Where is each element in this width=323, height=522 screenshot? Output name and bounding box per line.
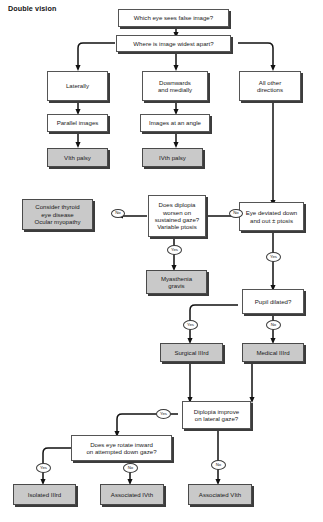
edge-label-no-associated-vith: No bbox=[211, 460, 226, 470]
node-laterally[interactable]: Laterally bbox=[47, 71, 108, 101]
node-medical-iiird[interactable]: Medical IIIrd bbox=[242, 343, 304, 362]
node-label-line: and out ± ptosis bbox=[250, 217, 293, 224]
node-label: Associated IVth bbox=[111, 491, 153, 498]
node-does-eye-rotate-inward-down-gaze[interactable]: Does eye rotate inward on attempted down… bbox=[71, 435, 172, 461]
node-label-line: directions bbox=[257, 86, 283, 93]
node-label-line: sustained gaze? bbox=[155, 216, 199, 223]
node-eye-deviated-down-and-out[interactable]: Eye deviated down and out ± ptosis bbox=[239, 202, 304, 231]
node-label-line: Downwards bbox=[159, 79, 191, 86]
edge-label-text: No bbox=[128, 466, 134, 471]
node-images-at-an-angle[interactable]: Images at an angle bbox=[140, 114, 210, 132]
node-label: Medical IIIrd bbox=[256, 349, 289, 356]
node-label: Isolated IIIrd bbox=[28, 491, 62, 498]
edge-label-no-associated-ivth: No bbox=[123, 463, 138, 473]
node-label: Laterally bbox=[66, 82, 89, 89]
node-label-line: Variable ptosis bbox=[157, 223, 197, 230]
node-pupil-dilated[interactable]: Pupil dilated? bbox=[242, 289, 304, 314]
node-does-diplopia-worsen-sustained-gaze[interactable]: Does diplopia worsen on sustained gaze? … bbox=[148, 195, 206, 237]
edge-label-text: Yes bbox=[160, 412, 167, 417]
node-label: Parallel images bbox=[57, 119, 99, 126]
node-all-other-directions[interactable]: All other directions bbox=[239, 71, 301, 101]
node-label: Images at an angle bbox=[149, 119, 201, 126]
node-label-line: worsen on bbox=[163, 209, 191, 216]
flowchart-canvas: Double vision bbox=[0, 0, 323, 522]
edge-label-yes-pupil-dilated: Yes bbox=[266, 252, 281, 262]
node-diplopia-improve-lateral-gaze[interactable]: Diplopia improve on lateral gaze? bbox=[182, 401, 251, 429]
node-label-line: Eye deviated down bbox=[246, 209, 298, 216]
node-ivth-palsy[interactable]: IVth palsy bbox=[142, 148, 203, 167]
node-label-line: Consider thyroid bbox=[35, 203, 79, 210]
node-label-line: on attempted down gaze? bbox=[86, 448, 156, 455]
edge-label-yes-isolated-iiird: Yes bbox=[36, 463, 51, 473]
node-label-line: gravis bbox=[168, 282, 184, 289]
node-associated-ivth[interactable]: Associated IVth bbox=[100, 484, 164, 505]
node-where-image-widest-apart[interactable]: Where is image widest apart? bbox=[116, 35, 231, 52]
node-label-line: Ocular myopathy bbox=[34, 218, 80, 225]
node-label-line: All other bbox=[259, 79, 281, 86]
node-label: Associated VIth bbox=[199, 491, 241, 498]
edge-label-no-thyroid: No bbox=[111, 209, 125, 218]
edge-label-text: Yes bbox=[270, 255, 277, 260]
node-label-line: and medially bbox=[158, 86, 192, 93]
edge-label-text: No bbox=[271, 323, 277, 328]
node-label: Pupil dilated? bbox=[255, 298, 292, 305]
node-label-line: Diplopia improve bbox=[194, 408, 239, 415]
node-label: Where is image widest apart? bbox=[133, 40, 213, 47]
node-label-line: Does eye rotate inward bbox=[90, 441, 153, 448]
node-label: Which eye sees false image? bbox=[134, 14, 213, 21]
edge-label-text: Yes bbox=[171, 248, 178, 253]
node-isolated-iiird[interactable]: Isolated IIIrd bbox=[13, 484, 76, 505]
node-label: IVth palsy bbox=[159, 154, 186, 161]
node-surgical-iiird[interactable]: Surgical IIIrd bbox=[160, 343, 223, 362]
edge-label-no-diplopia-worsen: No bbox=[229, 209, 243, 218]
node-consider-thyroid-eye-disease[interactable]: Consider thyroid eye disease Ocular myop… bbox=[22, 199, 93, 230]
node-label-line: on lateral gaze? bbox=[195, 415, 238, 422]
node-which-eye-false-image[interactable]: Which eye sees false image? bbox=[118, 9, 229, 27]
node-label-line: Does diplopia bbox=[159, 201, 196, 208]
node-vith-palsy[interactable]: VIth palsy bbox=[47, 148, 108, 167]
edge-label-text: Yes bbox=[40, 466, 47, 471]
node-label-line: eye disease bbox=[41, 211, 74, 218]
node-parallel-images[interactable]: Parallel images bbox=[47, 114, 108, 132]
node-myasthenia-gravis[interactable]: Myasthenia gravis bbox=[146, 270, 207, 294]
node-label: VIth palsy bbox=[64, 154, 91, 161]
edge-label-text: No bbox=[216, 463, 222, 468]
edge-label-text: No bbox=[233, 211, 239, 216]
node-downwards-and-medially[interactable]: Downwards and medially bbox=[142, 71, 208, 101]
node-associated-vith[interactable]: Associated VIth bbox=[188, 484, 252, 505]
node-label-line: Myasthenia bbox=[161, 275, 192, 282]
edge-label-yes-surgical-iiird: Yes bbox=[183, 320, 198, 330]
edge-label-yes-myasthenia: Yes bbox=[167, 245, 182, 255]
edge-label-no-medical-iiird: No bbox=[266, 320, 281, 330]
edge-label-text: Yes bbox=[187, 323, 194, 328]
edge-label-yes-rotate-inward: Yes bbox=[156, 409, 171, 419]
edge-label-text: No bbox=[115, 211, 121, 216]
node-label: Surgical IIIrd bbox=[174, 349, 208, 356]
